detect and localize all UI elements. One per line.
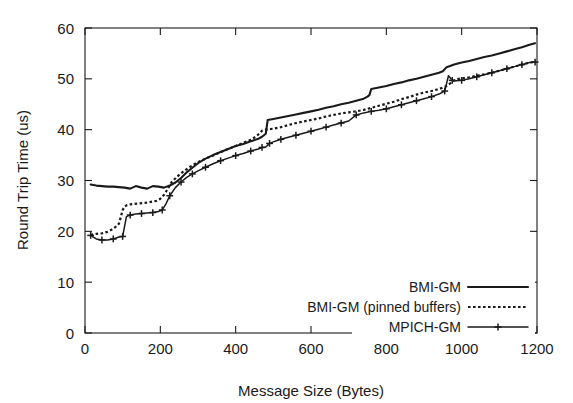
series-path (91, 43, 535, 188)
legend-label: BMI-GM (pinned buffers) (307, 299, 461, 315)
x-tick-label: 0 (81, 340, 89, 357)
x-tick-label: 1200 (520, 340, 553, 357)
x-axis-title: Message Size (Bytes) (238, 382, 384, 399)
chart-legend: BMI-GMBMI-GM (pinned buffers)MPICH-GM (307, 273, 535, 337)
y-tick-label: 30 (57, 172, 74, 189)
series-bmi-gm (91, 43, 535, 188)
chart-figure: 0102030405060 020040060080010001200 BMI-… (0, 0, 573, 403)
series-mpich-gm (87, 59, 538, 244)
x-tick-label: 200 (148, 340, 173, 357)
x-tick-label: 1000 (445, 340, 478, 357)
legend-label: BMI-GM (409, 279, 461, 295)
y-tick-label: 40 (57, 121, 74, 138)
y-tick-label: 50 (57, 70, 74, 87)
legend-label: MPICH-GM (389, 319, 461, 335)
y-tick-label: 0 (66, 325, 74, 342)
y-tick-label: 60 (57, 20, 74, 37)
x-tick-label: 800 (374, 340, 399, 357)
x-tick-label: 600 (298, 340, 323, 357)
x-tick-label: 400 (223, 340, 248, 357)
series-layer (87, 43, 538, 243)
y-tick-label: 20 (57, 223, 74, 240)
series-path (91, 62, 535, 240)
series-path (91, 62, 535, 235)
round-trip-time-line-chart: 0102030405060 020040060080010001200 BMI-… (0, 0, 573, 403)
y-tick-label: 10 (57, 274, 74, 291)
y-axis-title: Round Trip Time (us) (14, 110, 31, 250)
series-bmi-gm-pinned-buffers (91, 62, 535, 235)
